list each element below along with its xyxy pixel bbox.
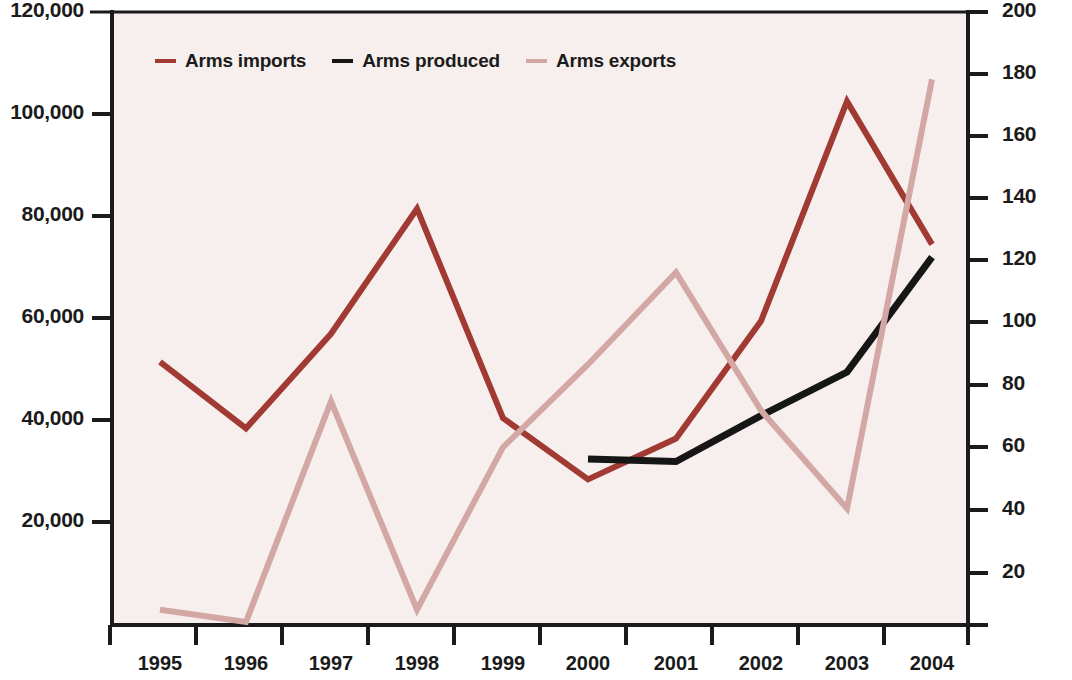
left-axis-ticks	[92, 12, 112, 522]
chart-legend: Arms importsArms producedArms exports	[155, 50, 676, 72]
legend-swatch-icon	[155, 59, 176, 63]
x-axis-tick-label: 2004	[892, 652, 972, 675]
right-axis-tick-label: 200	[1002, 0, 1036, 22]
plot-canvas	[0, 0, 1072, 680]
series-line-arms-exports	[160, 79, 932, 622]
x-axis-tick-label: 2003	[807, 652, 887, 675]
legend-label: Arms imports	[185, 50, 306, 72]
legend-item-arms-produced[interactable]: Arms produced	[332, 50, 500, 72]
right-axis-tick-label: 140	[1002, 184, 1036, 208]
right-axis-tick-label: 120	[1002, 246, 1036, 270]
right-axis-tick-label: 160	[1002, 122, 1036, 146]
left-axis-tick-label: 20,000	[22, 508, 84, 532]
legend-item-arms-imports[interactable]: Arms imports	[155, 50, 306, 72]
left-axis-tick-label: 120,000	[10, 0, 84, 22]
arms-trade-line-chart: 120,000100,00080,00060,00040,00020,000 2…	[0, 0, 1072, 680]
right-axis-ticks	[968, 12, 988, 625]
left-axis-tick-label: 60,000	[22, 304, 84, 328]
legend-swatch-icon	[526, 59, 547, 63]
x-axis-ticks	[110, 625, 968, 645]
legend-item-arms-exports[interactable]: Arms exports	[526, 50, 676, 72]
legend-label: Arms produced	[362, 50, 500, 72]
data-series-lines	[160, 79, 932, 622]
x-axis-tick-label: 1996	[206, 652, 286, 675]
right-axis-tick-label: 60	[1002, 433, 1025, 457]
right-axis-tick-label: 180	[1002, 60, 1036, 84]
series-line-arms-imports	[160, 101, 932, 479]
x-axis-tick-label: 1998	[377, 652, 457, 675]
x-axis-tick-label: 1999	[463, 652, 543, 675]
x-axis-tick-label: 2002	[721, 652, 801, 675]
left-axis-tick-label: 40,000	[22, 406, 84, 430]
right-axis-tick-label: 40	[1002, 496, 1025, 520]
axis-lines	[90, 10, 970, 627]
right-axis-tick-label: 20	[1002, 559, 1025, 583]
x-axis-tick-label: 1995	[120, 652, 200, 675]
right-axis-tick-label: 80	[1002, 371, 1025, 395]
x-axis-tick-label: 1997	[291, 652, 371, 675]
legend-swatch-icon	[332, 59, 353, 63]
x-axis-tick-label: 2001	[636, 652, 716, 675]
left-axis-tick-label: 100,000	[10, 100, 84, 124]
series-line-arms-produced	[588, 257, 932, 461]
left-axis-tick-label: 80,000	[22, 202, 84, 226]
legend-label: Arms exports	[556, 50, 676, 72]
right-axis-tick-label: 100	[1002, 308, 1036, 332]
x-axis-tick-label: 2000	[548, 652, 628, 675]
